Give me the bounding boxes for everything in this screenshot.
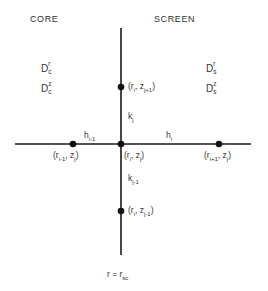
symbol-sup: r: [48, 61, 50, 68]
symbol-base: D: [206, 83, 213, 94]
symbol-sub: c: [48, 69, 51, 76]
node-dot-right: [216, 141, 223, 148]
core-axial-diffusion-coefficient: Dzc: [41, 84, 54, 94]
symbol-sub: s: [213, 69, 216, 76]
interface-label: r = rsc: [107, 270, 128, 281]
symbol-base: D: [41, 83, 48, 94]
symbol-sup: r: [213, 61, 215, 68]
symbol-base: D: [206, 63, 213, 74]
spacing-k-down: kj-1: [128, 174, 139, 185]
spacing-h-right: hi: [166, 131, 172, 142]
core-region-label: CORE: [30, 15, 58, 24]
symbol-sup: z: [48, 81, 51, 88]
core-radial-diffusion-coefficient: Drc: [41, 64, 54, 74]
node-dot-center: [118, 141, 125, 148]
symbol-sub: c: [48, 89, 51, 96]
symbol-sub: s: [213, 89, 216, 96]
node-label-right: (ri+1, zj): [204, 151, 231, 162]
spacing-k-up: kj: [128, 112, 134, 123]
node-label-top: (ri, zj+1): [128, 82, 155, 93]
node-dot-bottom: [118, 208, 125, 215]
node-dot-top: [118, 84, 125, 91]
node-label-center: (ri, zj): [124, 151, 144, 162]
grid-lines: [0, 0, 268, 291]
symbol-sup: z: [213, 81, 216, 88]
node-label-left: (ri-1, zj): [53, 151, 79, 162]
screen-region-label: SCREEN: [154, 15, 195, 24]
symbol-base: D: [41, 63, 48, 74]
screen-radial-diffusion-coefficient: Drs: [206, 64, 219, 74]
screen-axial-diffusion-coefficient: Dzs: [206, 84, 219, 94]
node-dot-left: [70, 141, 77, 148]
node-label-bottom: (ri, zj-1): [128, 206, 154, 217]
spacing-h-left: hi-1: [84, 131, 95, 142]
